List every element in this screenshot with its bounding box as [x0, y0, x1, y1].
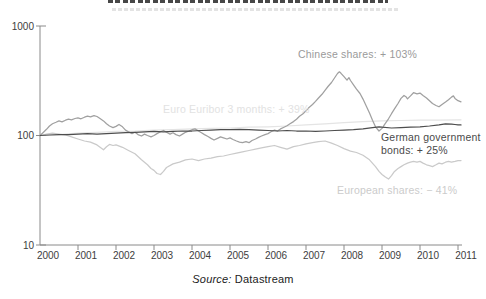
x-axis-label: 2003: [151, 250, 174, 261]
x-axis-label: 2005: [227, 250, 250, 261]
x-axis-label: 2002: [113, 250, 136, 261]
x-axis-label: 2001: [75, 250, 98, 261]
source-text: Datastream: [232, 273, 294, 285]
y-axis-label: 1000: [12, 21, 35, 32]
x-axis-label: 2006: [265, 250, 288, 261]
x-axis-label: 2008: [341, 250, 364, 261]
x-axis-label: 2004: [189, 250, 212, 261]
y-axis-label: 100: [17, 130, 34, 141]
y-axis-label: 10: [23, 240, 35, 251]
euro-euribor-label: Euro Euribor 3 months: + 39%: [163, 103, 310, 116]
chart-panel: 1000100102000200120022003200420052006200…: [0, 0, 486, 299]
x-axis-label: 2007: [303, 250, 326, 261]
european-shares-label: European shares: − 41%: [337, 184, 457, 197]
x-axis-label: 2011: [455, 250, 477, 261]
x-axis-label: 2009: [379, 250, 402, 261]
series-lines: [40, 72, 461, 179]
german-bonds-label: German governmentbonds: + 25%: [381, 131, 481, 157]
x-axis-label: 2010: [417, 250, 440, 261]
source-note: Source: Datastream: [0, 273, 486, 285]
x-axis-label: 2000: [37, 250, 60, 261]
source-prefix: Source:: [192, 273, 231, 285]
chinese-shares-label: Chinese shares: + 103%: [298, 48, 417, 61]
